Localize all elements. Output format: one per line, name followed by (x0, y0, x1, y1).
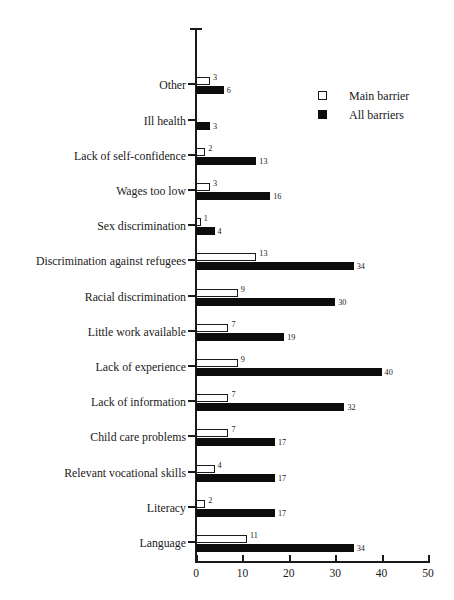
category-label: Language (0, 537, 186, 550)
bar-value-label-main-barrier: 3 (213, 74, 217, 82)
x-axis-tick-label: 50 (413, 566, 443, 580)
category-label: Lack of self-confidence (0, 150, 186, 163)
x-axis-tick (242, 555, 244, 563)
bar-all-barriers (196, 157, 256, 165)
bar-all-barriers (196, 438, 275, 446)
bar-value-label-main-barrier: 13 (259, 250, 267, 258)
bar-main-barrier (196, 218, 201, 226)
bar-value-label-all-barriers: 13 (259, 158, 267, 166)
bar-value-label-all-barriers: 19 (287, 334, 295, 342)
bar-value-label-all-barriers: 30 (338, 299, 346, 307)
bar-value-label-all-barriers: 40 (385, 369, 393, 377)
bar-value-label-all-barriers: 32 (347, 404, 355, 412)
category-label: Wages too low (0, 185, 186, 198)
bar-value-label-all-barriers: 17 (278, 475, 286, 483)
bar-all-barriers (196, 368, 382, 376)
category-label: Literacy (0, 502, 186, 515)
bar-all-barriers (196, 122, 210, 130)
x-axis-tick-label: 0 (181, 566, 211, 580)
bar-value-label-all-barriers: 16 (273, 193, 281, 201)
x-axis-tick (428, 555, 430, 563)
legend-label-all-barriers: All barriers (349, 108, 404, 122)
bar-all-barriers (196, 86, 224, 94)
bar-value-label-main-barrier: 7 (231, 321, 235, 329)
chart-legend: Main barrier All barriers (318, 86, 409, 124)
bar-main-barrier (196, 465, 215, 473)
legend-item-main-barrier: Main barrier (318, 86, 409, 105)
x-axis-tick (335, 555, 337, 563)
x-axis-tick-label: 10 (227, 566, 257, 580)
bar-main-barrier (196, 148, 205, 156)
bar-all-barriers (196, 227, 215, 235)
x-axis-tick-label: 30 (320, 566, 350, 580)
filled-square-swatch-icon (318, 110, 327, 119)
bar-value-label-main-barrier: 11 (250, 532, 258, 540)
x-axis-tick (289, 555, 291, 563)
bar-value-label-all-barriers: 17 (278, 439, 286, 447)
bar-value-label-all-barriers: 4 (218, 228, 222, 236)
bar-main-barrier (196, 253, 256, 261)
bar-main-barrier (196, 535, 247, 543)
bar-value-label-main-barrier: 7 (231, 426, 235, 434)
category-label: Lack of information (0, 396, 186, 409)
bar-all-barriers (196, 544, 354, 552)
x-axis-tick-label: 40 (367, 566, 397, 580)
bar-value-label-all-barriers: 6 (227, 87, 231, 95)
x-axis-tick (382, 555, 384, 563)
bar-main-barrier (196, 77, 210, 85)
x-axis-line (195, 561, 429, 563)
bar-value-label-main-barrier: 9 (241, 286, 245, 294)
bar-all-barriers (196, 509, 275, 517)
category-label: Little work available (0, 326, 186, 339)
bar-value-label-all-barriers: 17 (278, 510, 286, 518)
bar-value-label-all-barriers: 34 (357, 263, 365, 271)
bar-value-label-all-barriers: 3 (213, 123, 217, 131)
bar-value-label-main-barrier: 2 (208, 145, 212, 153)
bar-main-barrier (196, 324, 228, 332)
category-label: Relevant vocational skills (0, 467, 186, 480)
bar-all-barriers (196, 333, 284, 341)
bar-main-barrier (196, 183, 210, 191)
category-label: Ill health (0, 115, 186, 128)
bar-main-barrier (196, 429, 228, 437)
category-label: Child care problems (0, 431, 186, 444)
legend-item-all-barriers: All barriers (318, 105, 409, 124)
y-axis-tick (188, 119, 197, 121)
bar-all-barriers (196, 403, 344, 411)
bar-value-label-main-barrier: 7 (231, 391, 235, 399)
bar-value-label-main-barrier: 1 (204, 215, 208, 223)
bar-value-label-main-barrier: 9 (241, 356, 245, 364)
x-axis-tick (196, 555, 198, 563)
bar-value-label-main-barrier: 2 (208, 497, 212, 505)
category-label: Other (0, 79, 186, 92)
bar-main-barrier (196, 500, 205, 508)
horizontal-bar-chart: 01020304050 Language1134Literacy217Relev… (0, 0, 454, 600)
hollow-square-swatch-icon (318, 91, 327, 100)
bar-value-label-all-barriers: 34 (357, 545, 365, 553)
bar-all-barriers (196, 262, 354, 270)
bar-main-barrier (196, 394, 228, 402)
category-label: Discrimination against refugees (0, 255, 186, 268)
legend-label-main-barrier: Main barrier (349, 89, 409, 103)
bar-all-barriers (196, 474, 275, 482)
bar-main-barrier (196, 359, 238, 367)
bar-value-label-main-barrier: 3 (213, 180, 217, 188)
bar-all-barriers (196, 298, 335, 306)
category-label: Sex discrimination (0, 220, 186, 233)
bar-value-label-main-barrier: 4 (218, 462, 222, 470)
category-label: Lack of experience (0, 361, 186, 374)
bar-main-barrier (196, 289, 238, 297)
bar-all-barriers (196, 192, 270, 200)
category-label: Racial discrimination (0, 291, 186, 304)
x-axis-tick-label: 20 (274, 566, 304, 580)
